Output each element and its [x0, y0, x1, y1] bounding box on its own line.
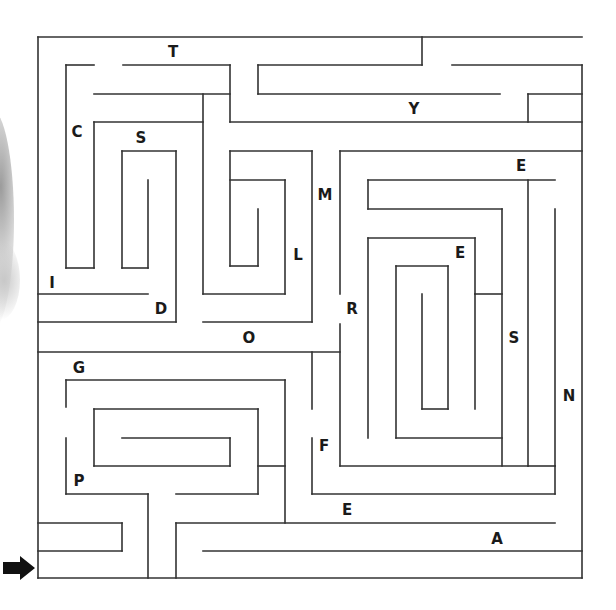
maze-letter-o: O — [243, 329, 256, 347]
maze-letter-s: S — [136, 129, 147, 147]
maze-letter-e: E — [455, 244, 465, 262]
maze-letter-d: D — [155, 300, 167, 318]
maze-letter-e: E — [516, 157, 526, 175]
maze-letter-y: Y — [408, 100, 421, 118]
maze-letter-r: R — [346, 300, 358, 318]
maze-letter-f: F — [319, 437, 329, 455]
maze-board: TYCSEMELIDROSGNFPEA — [0, 0, 616, 610]
maze-letter-g: G — [73, 359, 85, 377]
maze-letter-e: E — [342, 501, 352, 519]
start-arrow-icon — [3, 556, 35, 580]
maze-letter-s: S — [509, 329, 520, 347]
maze-letter-i: I — [49, 274, 55, 292]
maze-letter-n: N — [563, 387, 576, 405]
maze-letter-c: C — [71, 123, 82, 141]
maze-letter-p: P — [74, 472, 85, 490]
maze-letter-t: T — [168, 43, 179, 61]
maze-letter-m: M — [318, 186, 333, 204]
maze-letter-a: A — [491, 530, 503, 548]
maze-walls — [38, 37, 582, 578]
maze-letter-l: L — [293, 246, 303, 264]
